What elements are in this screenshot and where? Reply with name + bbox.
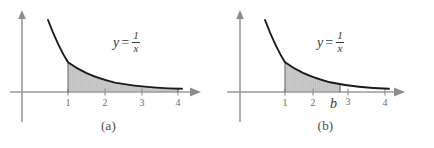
caption-a: (a) [0,118,217,134]
function-label-a-lhs: y [113,35,119,50]
caption-b: (b) [217,118,434,134]
function-label-b-lhs: y [317,35,323,50]
function-label-b-numerator: 1 [336,30,344,42]
tick-label-b-3: 3 [341,96,355,107]
function-label-a-numerator: 1 [132,30,140,42]
function-label-b-equals: = [325,35,333,50]
function-label-b-denominator: x [336,43,344,55]
figure-two-panels: 1 2 3 4 y=1x (a) [0,0,434,148]
y-axis-arrowhead-a [18,10,26,19]
y-axis-arrowhead-b [236,10,244,19]
function-label-b: y=1x [317,30,344,54]
tick-label-a-3: 3 [135,97,149,108]
function-label-a-fraction: 1x [132,30,140,54]
b-bound-label: b [330,96,337,112]
function-label-b-fraction: 1x [336,30,344,54]
tick-label-a-1: 1 [61,97,75,108]
panel-b: 1 2 3 4 b y=1x (b) [217,0,434,148]
x-axis-arrowhead-b [394,88,405,97]
tick-label-b-2: 2 [306,97,320,108]
tick-label-a-2: 2 [98,97,112,108]
tick-label-a-4: 4 [171,97,185,108]
function-label-a-equals: = [121,35,129,50]
tick-label-b-1: 1 [278,97,292,108]
x-axis-arrowhead-a [190,88,201,97]
panel-a: 1 2 3 4 y=1x (a) [0,0,217,148]
tick-label-b-4: 4 [378,97,392,108]
function-label-a-denominator: x [132,43,140,55]
function-label-a: y=1x [113,30,140,54]
